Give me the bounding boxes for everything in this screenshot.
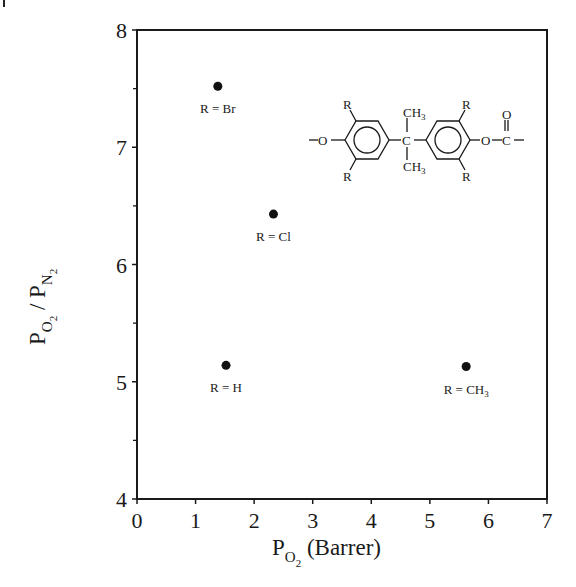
atom-O-carbonyl: O [502,107,511,122]
plot-frame [137,30,547,499]
atom-C: C [402,133,411,148]
data-label: R = Br [200,101,236,116]
y-tick-label: 4 [116,487,127,512]
y-tick-label: 6 [116,253,127,278]
data-point [269,210,278,219]
x-tick-label: 2 [249,508,260,533]
methyl-top: CH3 [403,105,426,122]
atom-O: O [481,133,490,148]
data-point [213,82,222,91]
y-tick-label: 7 [116,135,127,160]
atom-R: R [343,97,352,112]
axes [137,30,547,499]
atom-C-carbonyl: C [502,133,511,148]
data-label: R = Cl [256,229,291,244]
atom-R: R [462,97,471,112]
aromatic-circle-left [354,127,380,153]
data-points: R = BrR = ClR = HR = CH3 [200,82,489,399]
aromatic-circle-right [435,127,461,153]
atom-O: O [318,133,327,148]
x-tick-label: 0 [132,508,143,533]
data-point [462,362,471,371]
x-axis-title: PO2 (Barrer) [272,535,381,569]
x-tick-label: 1 [190,508,201,533]
scatter-chart: 0123456745678 R = BrR = ClR = HR = CH3 P… [0,0,576,587]
y-axis-title: PO2 / PN2 [25,269,59,345]
data-point [222,361,231,370]
atom-R: R [462,169,471,184]
data-label: R = H [210,380,242,395]
data-label: R = CH3 [444,382,490,399]
y-tick-label: 8 [116,18,127,43]
atom-R: R [343,169,352,184]
x-tick-label: 3 [307,508,318,533]
x-tick-label: 4 [366,508,377,533]
x-tick-label: 6 [483,508,494,533]
x-tick-label: 7 [542,508,553,533]
ticks: 0123456745678 [116,18,553,533]
y-tick-label: 5 [116,370,127,395]
methyl-bottom: CH3 [403,159,426,176]
x-tick-label: 5 [424,508,435,533]
